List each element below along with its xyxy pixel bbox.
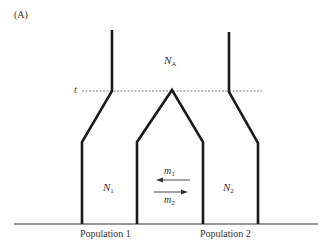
arrowhead-left-icon bbox=[156, 178, 163, 183]
panel-label: (A) bbox=[14, 10, 28, 20]
isolation-migration-diagram bbox=[0, 0, 331, 251]
m1-label: m1 bbox=[164, 166, 175, 178]
pop2-name-label: Population 2 bbox=[200, 229, 251, 239]
pop1-name-label: Population 1 bbox=[80, 229, 131, 239]
ancestral-pop-label: NA bbox=[164, 55, 176, 68]
m2-label: m2 bbox=[164, 195, 175, 207]
pop1-size-label: N1 bbox=[103, 182, 114, 195]
arrowhead-right-icon bbox=[181, 190, 188, 195]
right-outer-boundary bbox=[229, 32, 258, 224]
time-label: t bbox=[74, 85, 77, 95]
pop2-size-label: N2 bbox=[223, 182, 234, 195]
